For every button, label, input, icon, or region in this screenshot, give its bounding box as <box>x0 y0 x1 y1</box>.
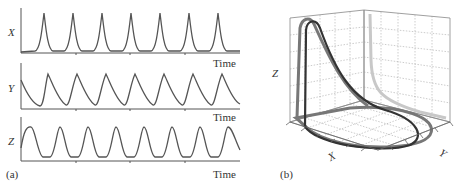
z-axis-ylabel: Z <box>8 135 14 147</box>
y-row-time-label: Time <box>213 111 236 123</box>
x-trace <box>21 13 240 52</box>
z-axis-label-3d: Z <box>272 67 278 79</box>
panel-b-label: (b) <box>280 168 293 180</box>
panel-a-label: (a) <box>6 168 18 180</box>
x-row-time-label: Time <box>213 57 236 69</box>
y-axis-ylabel: Y <box>8 82 14 94</box>
x-axis-ylabel: X <box>8 26 15 38</box>
3d-phase-plot <box>250 0 463 189</box>
panel-a-time-series: X Time Y Time Z Time (a) <box>0 0 250 189</box>
y-trace <box>21 74 240 106</box>
panel-b-phase-space: Z X Y (b) <box>250 0 463 189</box>
time-series-plots <box>0 0 250 189</box>
z-row-time-label: Time <box>213 168 236 180</box>
z-trace <box>21 127 240 157</box>
